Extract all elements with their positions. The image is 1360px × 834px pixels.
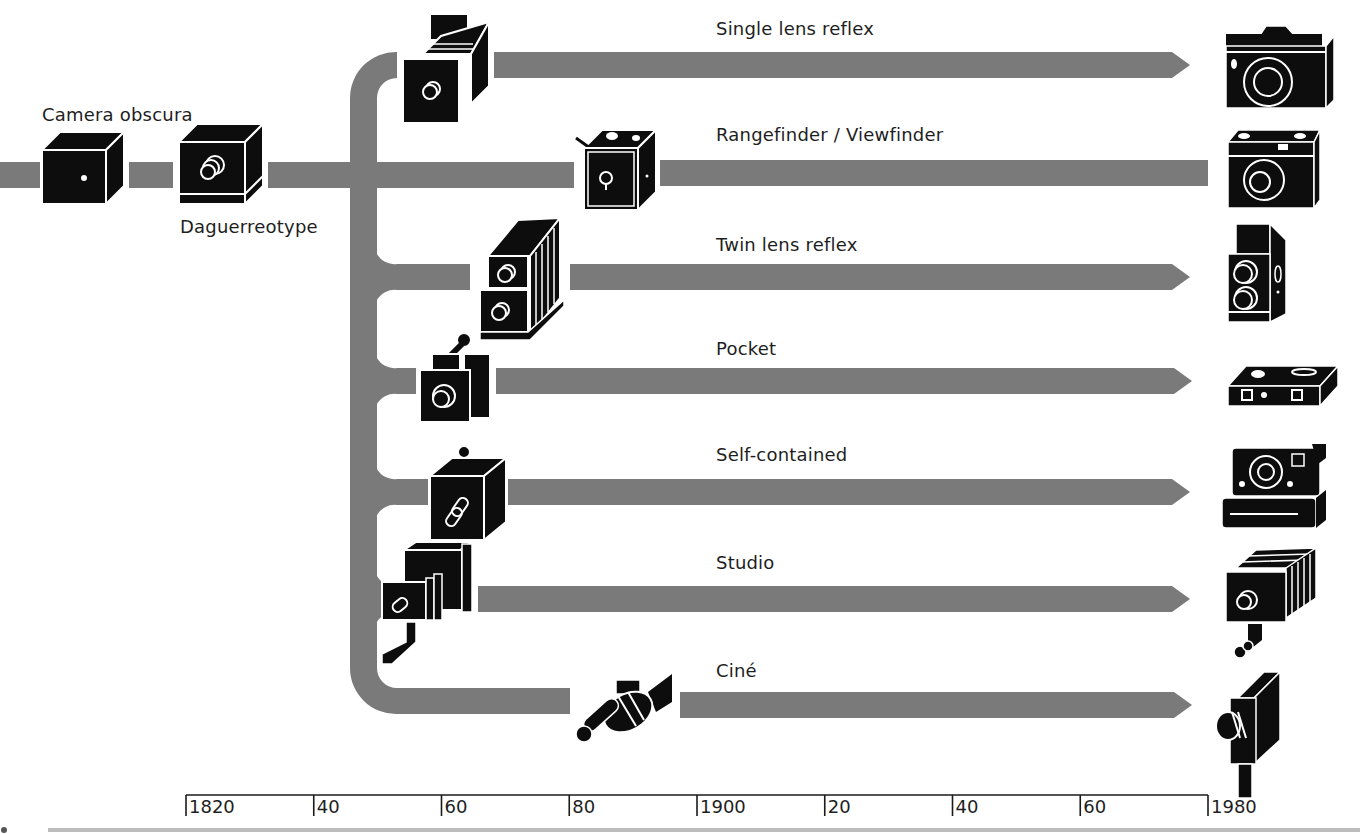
branch-label-studio: Studio <box>716 552 775 573</box>
branch-arrow-studio <box>478 586 1190 612</box>
branch-arrow-single-lens-reflex <box>494 52 1190 78</box>
origin-label-daguerreotype: Daguerreotype <box>180 216 318 237</box>
daguerreotype-icon <box>179 124 263 204</box>
axis-tick-label: 40 <box>956 796 979 817</box>
axis-tick-label: 1980 <box>1211 796 1257 817</box>
footer-marker <box>1 827 7 833</box>
slr-camera-icon <box>1226 26 1334 108</box>
rangefinder-camera-icon <box>1228 130 1320 208</box>
branch-arrow-rangefinder-viewfinder <box>662 160 1190 186</box>
branch-arrow-cin- <box>680 692 1192 718</box>
branch-label-cine: Ciné <box>716 660 757 681</box>
track-segment <box>129 162 173 188</box>
early-studio-camera-icon <box>382 542 472 664</box>
axis-tick-label: 20 <box>828 796 851 817</box>
branch-label-twin-lens-reflex: Twin lens reflex <box>716 234 857 255</box>
track-segment <box>0 162 40 188</box>
branch-tracks <box>377 52 1192 718</box>
footer-rule <box>48 828 1360 832</box>
branch-arrow-pocket <box>496 368 1192 394</box>
early-twin-lens-camera-icon <box>480 218 564 340</box>
branch-junction-pocket <box>377 358 416 404</box>
camera-evolution-diagram <box>0 0 1360 834</box>
axis-tick-label: 1900 <box>700 796 746 817</box>
axis-tick-label: 80 <box>572 796 595 817</box>
axis-tick-label: 60 <box>445 796 468 817</box>
track-segment <box>268 162 574 188</box>
branch-label-single-lens-reflex: Single lens reflex <box>716 18 874 39</box>
early-cine-camera-icon <box>576 674 672 742</box>
branch-label-pocket: Pocket <box>716 338 776 359</box>
early-reflex-camera-icon <box>403 14 489 123</box>
branch-label-self-contained: Self-contained <box>716 444 847 465</box>
branch-junction-self-contained <box>377 469 428 515</box>
axis-tick-label: 60 <box>1083 796 1106 817</box>
box-camera-icon <box>576 130 656 210</box>
pocket-camera-icon <box>1228 366 1338 406</box>
origin-label-camera-obscura: Camera obscura <box>42 104 193 125</box>
cine-camera-icon <box>1216 672 1280 798</box>
axis-tick-label: 40 <box>317 796 340 817</box>
branch-arrow-self-contained <box>508 479 1190 505</box>
twin-lens-reflex-camera-icon <box>1228 224 1286 322</box>
branch-arrow-twin-lens-reflex <box>570 264 1190 290</box>
camera-obscura-icon <box>42 132 124 204</box>
branch-junction-twin-lens-reflex <box>377 254 470 300</box>
early-self-contained-camera-icon <box>430 446 506 540</box>
instant-camera-icon <box>1222 444 1326 528</box>
studio-camera-icon <box>1226 548 1316 658</box>
early-pocket-camera-icon <box>420 333 490 422</box>
branch-label-rangefinder: Rangefinder / Viewfinder <box>716 124 943 145</box>
axis-tick-label: 1820 <box>189 796 235 817</box>
